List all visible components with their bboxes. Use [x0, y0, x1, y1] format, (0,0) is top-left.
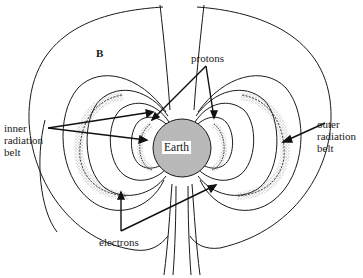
inner-belt-label-line3: belt: [4, 146, 21, 158]
protons-label: protons: [191, 52, 224, 64]
earth-label: Earth: [162, 141, 191, 154]
outer-belt-left: [74, 92, 128, 200]
outer-belt-label-line1: outer: [317, 118, 340, 130]
outer-belt-label-line3: belt: [317, 142, 334, 154]
inner-belt-label-line1: inner: [4, 122, 27, 134]
outer-belt-right: [236, 92, 290, 200]
inner-belt-label-line2: radiation: [4, 134, 43, 146]
electrons-label: electrons: [99, 236, 139, 248]
outer-belt-label-line2: radiation: [317, 130, 356, 142]
radiation-belt-diagram: [0, 0, 363, 278]
field-label-b: B: [96, 47, 103, 59]
